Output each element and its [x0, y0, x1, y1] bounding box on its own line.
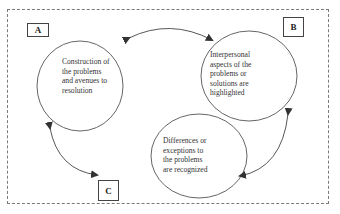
- node-b-line: Interpersonal: [210, 50, 251, 60]
- arrow-b-c: [240, 114, 288, 176]
- node-b-line: solutions are: [210, 79, 251, 89]
- node-c-text: Differences or exceptions to the problem…: [163, 136, 207, 174]
- box-a: A: [27, 23, 49, 37]
- box-b-label: B: [290, 22, 296, 32]
- arrow-a-b: [129, 28, 212, 40]
- cycle-diagram: A B C Construction of the problems and a…: [0, 0, 340, 214]
- box-b: B: [283, 17, 304, 37]
- node-b-text: Interpersonal aspects of the problems or…: [210, 50, 251, 98]
- node-a-line: resolution: [62, 86, 109, 96]
- node-a-text: Construction of the problems and avenues…: [62, 57, 109, 95]
- arrow-c-a: [50, 128, 97, 175]
- node-a-line: the problems: [62, 67, 109, 77]
- node-b-line: aspects of the: [210, 60, 251, 70]
- node-b-line: problems or: [210, 69, 251, 79]
- node-b-line: highlighted: [210, 88, 251, 98]
- box-a-label: A: [35, 25, 42, 35]
- node-a-line: and avenues to: [62, 76, 109, 86]
- node-c-line: exceptions to: [163, 146, 207, 156]
- node-a-line: Construction of: [62, 57, 109, 67]
- node-c-line: Differences or: [163, 136, 207, 146]
- node-c-line: the problems: [163, 155, 207, 165]
- box-c-label: C: [105, 186, 112, 196]
- node-c-line: are recognized: [163, 165, 207, 175]
- box-c: C: [98, 180, 119, 201]
